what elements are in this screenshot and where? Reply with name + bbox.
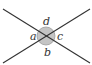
diagram-canvas: d a c b (0, 0, 92, 65)
angle-label-c: c (57, 30, 63, 43)
angle-label-a: a (30, 30, 37, 43)
angle-label-d: d (43, 15, 50, 28)
angle-label-b: b (44, 46, 51, 59)
intersecting-lines-diagram: d a c b (0, 0, 92, 65)
